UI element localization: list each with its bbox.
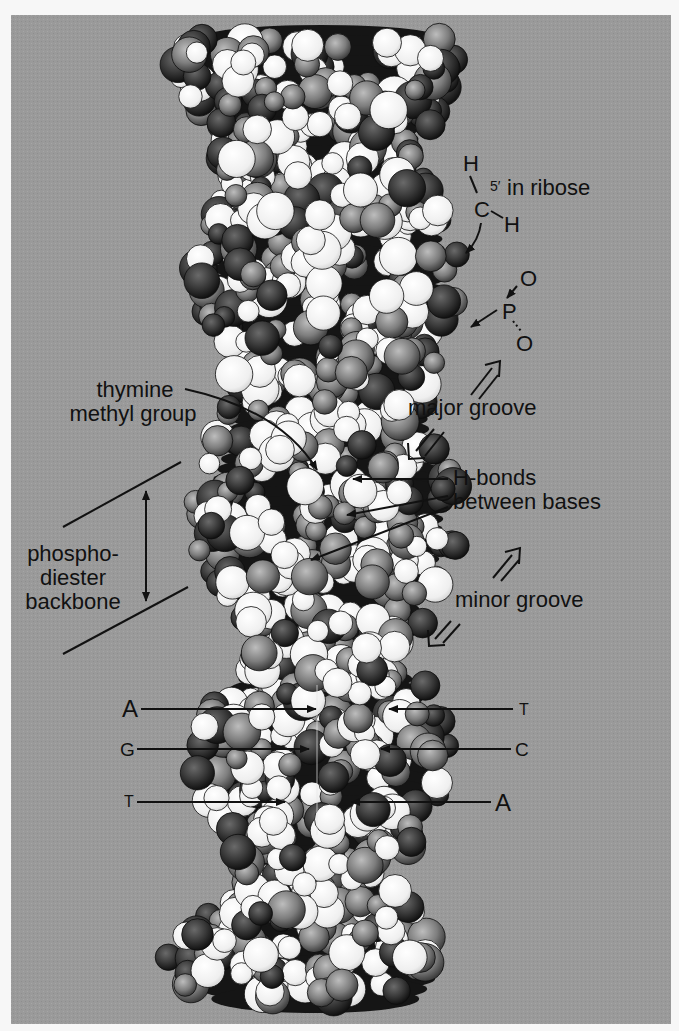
thymine-label-line1: thymine xyxy=(96,377,173,402)
hbonds-label-line1: H-bonds xyxy=(453,465,536,490)
minor-groove-label: minor groove xyxy=(455,587,583,612)
backbone-label-line1: phospho- xyxy=(27,541,119,566)
base-pair-3-left: T xyxy=(124,793,134,810)
thymine-label-line2: methyl group xyxy=(69,401,196,426)
hbonds-label-line2: between bases xyxy=(453,489,601,514)
ribose-5prime-text: 5′ xyxy=(490,178,501,194)
ribose-label: in ribose xyxy=(507,175,590,200)
base-pair-2-left: G xyxy=(120,739,135,760)
backbone-label-line2: diester xyxy=(40,565,106,590)
base-pair-3-right: A xyxy=(495,789,511,816)
dna-figure-panel: H C 5′ in ribose H O P O thymine methyl … xyxy=(11,15,671,1024)
ribose-h-top: H xyxy=(463,151,479,176)
backbone-label-line3: backbone xyxy=(25,589,120,614)
ribose-c: C xyxy=(474,197,490,222)
major-groove-label: major groove xyxy=(408,395,536,420)
phosphate-o-top: O xyxy=(520,266,537,291)
dna-diagram-svg: H C 5′ in ribose H O P O thymine methyl … xyxy=(11,15,671,1024)
phosphate-o-bottom: O xyxy=(516,331,533,356)
base-pair-1-left: A xyxy=(122,695,138,722)
base-pair-2-right: C xyxy=(515,739,529,760)
ribose-h-right: H xyxy=(504,212,520,237)
base-pair-1-right: T xyxy=(519,701,529,718)
phosphate-p: P xyxy=(502,299,517,324)
